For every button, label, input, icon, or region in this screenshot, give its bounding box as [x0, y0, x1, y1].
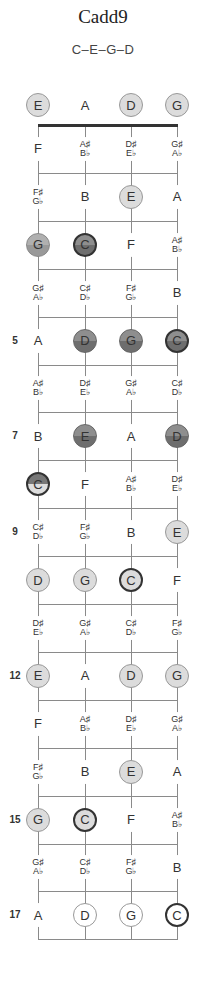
note-label: F — [119, 233, 143, 257]
note-name: G — [172, 99, 182, 112]
note-name: A♯ B♭ — [33, 379, 44, 397]
note-name: D — [80, 334, 89, 347]
note-name: A — [34, 334, 43, 347]
note-name: E — [81, 430, 90, 443]
note-name: F♯ G♭ — [79, 523, 90, 541]
note-label: A♯ B♭ — [165, 233, 189, 257]
fret-line — [38, 748, 178, 749]
nut — [38, 124, 178, 127]
fret-line — [38, 652, 178, 653]
fret-line — [38, 939, 178, 940]
note-label: C♯ D♭ — [26, 520, 50, 544]
note-label: F — [119, 808, 143, 832]
note-name: E — [173, 526, 182, 539]
note-name: F — [34, 142, 42, 155]
note-name: G — [33, 238, 43, 251]
note-name: D♯ E♭ — [33, 619, 44, 637]
note-name: G — [80, 574, 90, 587]
note-name: G — [172, 669, 182, 682]
note-label: A — [165, 760, 189, 784]
fret-line — [38, 891, 178, 892]
note-name: G — [126, 909, 136, 922]
note-label: C♯ D♭ — [73, 281, 97, 305]
note-label: A — [26, 903, 50, 927]
note-name: B — [81, 190, 90, 203]
note-name: C♯ D♭ — [126, 619, 137, 637]
note-label: D♯ E♭ — [73, 376, 97, 400]
note-name: G♯ A♭ — [171, 715, 183, 733]
fret-line — [38, 365, 178, 366]
note-label: F — [26, 137, 50, 161]
note-marker: D — [26, 568, 50, 592]
note-name: B — [81, 765, 90, 778]
note-marker: C — [119, 568, 143, 592]
note-name: A♯ B♭ — [172, 236, 183, 254]
note-label: B — [165, 281, 189, 305]
note-label: B — [73, 185, 97, 209]
note-marker: C — [73, 233, 97, 257]
note-name: F — [127, 813, 135, 826]
fret-line — [38, 844, 178, 845]
note-name: C♯ D♭ — [80, 284, 91, 302]
note-name: G — [126, 334, 136, 347]
fretboard: 579121517EADGFA♯ B♭D♯ E♭G♯ A♭F♯ G♭BEAGCF… — [0, 0, 206, 994]
note-label: F♯ G♭ — [119, 855, 143, 879]
note-name: D — [126, 99, 135, 112]
note-marker: G — [165, 664, 189, 688]
note-name: C — [172, 334, 181, 347]
note-name: A♯ B♭ — [80, 140, 91, 158]
note-label: F♯ G♭ — [26, 760, 50, 784]
note-name: C — [126, 574, 135, 587]
note-name: C — [33, 478, 42, 491]
note-name: F♯ G♭ — [125, 284, 136, 302]
note-label: A — [26, 329, 50, 353]
note-name: A — [81, 99, 90, 112]
note-name: E — [34, 669, 43, 682]
note-label: D♯ E♭ — [119, 137, 143, 161]
note-name: D♯ E♭ — [80, 379, 91, 397]
note-name: E — [127, 765, 136, 778]
note-label: B — [165, 855, 189, 879]
note-label: A — [73, 93, 97, 117]
note-name: G♯ A♭ — [32, 284, 44, 302]
fret-number: 12 — [8, 670, 22, 681]
note-marker: G — [119, 329, 143, 353]
fret-number: 5 — [8, 335, 22, 346]
note-label: D♯ E♭ — [119, 712, 143, 736]
note-label: D♯ E♭ — [26, 616, 50, 640]
note-label: C♯ D♭ — [119, 616, 143, 640]
note-label: F — [165, 568, 189, 592]
note-marker: D — [119, 93, 143, 117]
fret-number: 7 — [8, 430, 22, 441]
note-marker: G — [73, 568, 97, 592]
fret-line — [38, 604, 178, 605]
note-name: D — [172, 430, 181, 443]
note-label: C♯ D♭ — [165, 376, 189, 400]
note-name: D — [33, 574, 42, 587]
note-label: B — [119, 520, 143, 544]
note-label: G♯ A♭ — [119, 376, 143, 400]
fret-line — [38, 460, 178, 461]
note-name: A♯ B♭ — [126, 475, 137, 493]
note-name: A♯ B♭ — [172, 811, 183, 829]
note-label: A♯ B♭ — [73, 712, 97, 736]
note-name: F♯ G♭ — [125, 858, 136, 876]
note-name: G♯ A♭ — [171, 140, 183, 158]
note-name: B — [34, 430, 43, 443]
note-marker: C — [165, 903, 189, 927]
note-label: F — [73, 472, 97, 496]
note-name: B — [173, 286, 182, 299]
note-name: G♯ A♭ — [125, 379, 137, 397]
note-name: D♯ E♭ — [126, 715, 137, 733]
note-name: F — [81, 478, 89, 491]
note-label: B — [26, 424, 50, 448]
note-label: A♯ B♭ — [26, 376, 50, 400]
note-marker: E — [119, 185, 143, 209]
fret-number: 15 — [8, 814, 22, 825]
note-marker: E — [165, 520, 189, 544]
fret-line — [38, 556, 178, 557]
note-marker: D — [73, 903, 97, 927]
fret-line — [38, 412, 178, 413]
note-name: D♯ E♭ — [126, 140, 137, 158]
note-name: A — [81, 669, 90, 682]
